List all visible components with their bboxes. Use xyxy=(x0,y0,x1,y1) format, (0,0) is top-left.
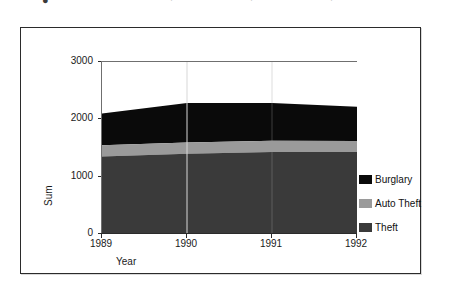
artifact-glyph-2: · xyxy=(170,0,173,5)
x-tick-label-1990: 1990 xyxy=(164,239,208,249)
x-tick-label-1991: 1991 xyxy=(249,239,293,249)
chart-legend: Burglary Auto Theft Theft xyxy=(359,173,417,245)
legend-item-burglary[interactable]: Burglary xyxy=(359,173,417,186)
legend-label-theft: Theft xyxy=(375,223,398,233)
y-tick-label-3000: 3000 xyxy=(53,56,93,66)
chart-frame: 3000 2000 1000 0 1989 1990 1991 1992 Sum… xyxy=(20,27,421,274)
x-tick-label-1989: 1989 xyxy=(79,239,123,249)
y-axis-title: Sum xyxy=(43,185,54,206)
x-axis-title: Year xyxy=(116,256,136,267)
artifact-glyph-1: ● xyxy=(42,0,49,5)
y-tick-label-1000: 1000 xyxy=(53,171,93,181)
area-theft xyxy=(102,152,357,234)
area-burglary xyxy=(102,103,357,145)
x-axis-line xyxy=(101,233,357,234)
y-tick-label-0: 0 xyxy=(53,228,93,238)
legend-swatch-burglary xyxy=(359,175,372,184)
artifact-glyph-3: · xyxy=(250,0,253,5)
y-tick-label-2000: 2000 xyxy=(53,113,93,123)
legend-swatch-auto-theft xyxy=(359,199,372,208)
legend-label-auto-theft: Auto Theft xyxy=(375,199,421,209)
artifact-glyph-4: · xyxy=(330,0,333,5)
stacked-area-series xyxy=(102,62,357,234)
legend-swatch-theft xyxy=(359,223,372,232)
plot-area xyxy=(101,61,357,234)
legend-label-burglary: Burglary xyxy=(375,175,412,185)
legend-item-theft[interactable]: Theft xyxy=(359,221,417,234)
legend-item-auto-theft[interactable]: Auto Theft xyxy=(359,197,417,210)
clipped-header-artifact: ● · · · xyxy=(0,0,462,9)
